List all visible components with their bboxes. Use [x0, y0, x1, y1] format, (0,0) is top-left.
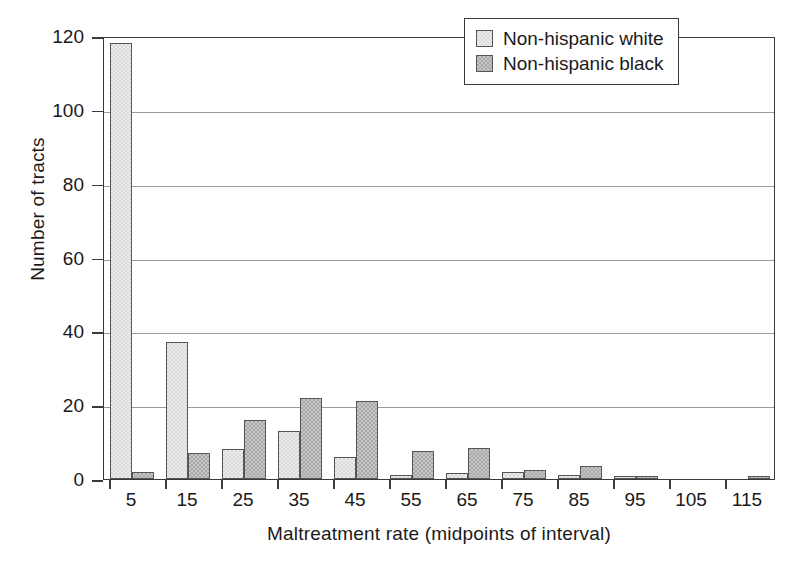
bar: [300, 398, 322, 479]
x-axis-tick: [501, 480, 503, 489]
y-axis-tick: [92, 259, 103, 261]
x-axis-tick: [389, 480, 391, 489]
bar: [446, 473, 468, 479]
bar: [614, 476, 636, 479]
y-axis-tick: [92, 480, 103, 482]
bar: [132, 472, 154, 479]
legend-label: Non-hispanic white: [503, 28, 664, 50]
bars-layer: [104, 38, 774, 479]
x-axis-title: Maltreatment rate (midpoints of interval…: [103, 523, 775, 545]
bar: [356, 401, 378, 479]
bar: [412, 451, 434, 479]
y-axis-tick-label: 20: [14, 395, 84, 417]
x-axis-tick: [445, 480, 447, 489]
y-axis-tick-label: 80: [14, 174, 84, 196]
x-axis-tick: [613, 480, 615, 489]
bar: [278, 431, 300, 479]
bar: [636, 476, 658, 479]
legend-item: Non-hispanic black: [476, 51, 664, 76]
legend-label: Non-hispanic black: [503, 53, 664, 75]
bar: [188, 453, 210, 479]
bar: [334, 457, 356, 479]
y-axis-tick-label: 120: [14, 26, 84, 48]
bar: [110, 43, 132, 479]
bar: [748, 476, 770, 479]
bar: [390, 475, 412, 479]
x-axis-tick: [669, 480, 671, 489]
x-axis-tick: [165, 480, 167, 489]
x-axis-tick: [557, 480, 559, 489]
bar: [524, 470, 546, 479]
y-axis-tick-label: 0: [14, 469, 84, 491]
x-axis-tick: [277, 480, 279, 489]
y-axis-tick: [92, 37, 103, 39]
plot-area: [103, 37, 775, 480]
bar: [244, 420, 266, 479]
bar: [580, 466, 602, 479]
x-axis-tick-label: 115: [712, 489, 782, 511]
y-axis-tick: [92, 185, 103, 187]
bar: [166, 342, 188, 479]
y-axis-tick-label: 100: [14, 100, 84, 122]
chart-legend: Non-hispanic whiteNon-hispanic black: [464, 18, 679, 85]
x-axis-tick: [221, 480, 223, 489]
bar: [468, 448, 490, 479]
x-axis-tick: [725, 480, 727, 489]
y-axis-tick-label: 60: [14, 248, 84, 270]
bar: [222, 449, 244, 479]
legend-swatch-icon: [476, 55, 493, 72]
legend-item: Non-hispanic white: [476, 26, 664, 51]
x-axis-tick: [109, 480, 111, 489]
y-axis-tick: [92, 406, 103, 408]
histogram-figure: Number of tracts Maltreatment rate (midp…: [0, 0, 801, 571]
x-axis-tick: [333, 480, 335, 489]
bar: [502, 472, 524, 479]
y-axis-tick: [92, 111, 103, 113]
y-axis-tick-label: 40: [14, 321, 84, 343]
y-axis-tick: [92, 332, 103, 334]
bar: [558, 475, 580, 479]
legend-swatch-icon: [476, 30, 493, 47]
